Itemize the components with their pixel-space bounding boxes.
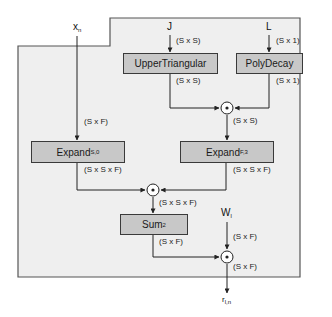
block-poly-decay: PolyDecay xyxy=(236,53,303,74)
input-l: L xyxy=(266,22,272,32)
shape-l-to-poly: (S x 1) xyxy=(276,37,300,45)
block-expand-f3: ExpandF,3 xyxy=(180,141,274,163)
input-w-sub: l xyxy=(230,213,231,219)
hadamard-op-3 xyxy=(221,251,233,263)
input-l-base: L xyxy=(266,21,272,32)
block-upper-triangular-label: UpperTriangular xyxy=(135,58,207,69)
shape-poly-out: (S x 1) xyxy=(276,77,300,85)
input-j: J xyxy=(167,22,172,32)
shape-odot2-out: (S x S x F) xyxy=(159,199,197,207)
hadamard-op-1 xyxy=(221,102,233,114)
input-w: Wl xyxy=(221,208,232,219)
input-j-base: J xyxy=(167,21,172,32)
shape-odot3-out: (S x F) xyxy=(233,263,257,271)
shape-j-to-upper: (S x S) xyxy=(176,37,200,45)
shape-odot1-out: (S x S) xyxy=(233,117,257,125)
block-poly-decay-label: PolyDecay xyxy=(246,58,294,69)
hadamard-op-2 xyxy=(147,184,159,196)
shape-x-to-expand: (S x F) xyxy=(84,118,108,126)
input-x-sub: n xyxy=(78,27,81,33)
input-x: xn xyxy=(73,22,81,33)
shape-sum-out: (S x F) xyxy=(159,238,183,246)
shape-upper-out: (S x S) xyxy=(176,77,200,85)
block-expand-s0: ExpandS,0 xyxy=(31,141,125,163)
block-expand-f3-label: Expand xyxy=(206,147,240,158)
shape-w-in: (S x F) xyxy=(233,233,257,241)
block-upper-triangular: UpperTriangular xyxy=(123,53,218,74)
block-expand-s0-label: Expand xyxy=(57,147,91,158)
block-expand-s0-sub: S,0 xyxy=(90,149,99,155)
block-expand-f3-sub: F,3 xyxy=(240,149,248,155)
block-sum2-sub: 2 xyxy=(163,222,166,228)
shape-expand-s0-out: (S x S x F) xyxy=(84,166,122,174)
shape-expand-f3-out: (S x S x F) xyxy=(233,166,271,174)
block-sum2-label: Sum xyxy=(142,219,163,230)
output-r-sub: l,n xyxy=(225,299,231,305)
output-r: rl,n xyxy=(222,296,231,305)
block-sum2: Sum2 xyxy=(120,214,188,235)
